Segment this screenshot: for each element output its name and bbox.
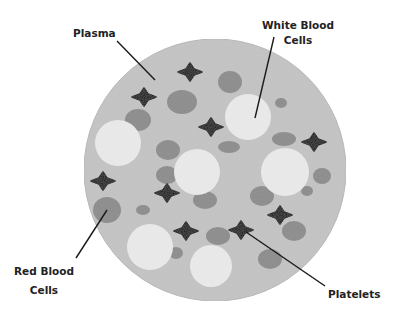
plasma-label: Plasma (73, 26, 116, 41)
platelet-core (275, 211, 285, 219)
platelet-core (98, 177, 108, 185)
white-blood-cells-label: White Blood Cells (262, 18, 334, 48)
red-blood-cell (136, 205, 150, 215)
white-blood-cell (95, 120, 141, 166)
plasma-region (84, 39, 346, 301)
white-blood-cells-label-line-1: White Blood (262, 18, 334, 33)
red-blood-cell (258, 249, 282, 269)
platelet-core (139, 93, 149, 101)
platelet-core (236, 226, 246, 234)
platelet-core (162, 189, 172, 197)
red-blood-cell (156, 140, 180, 160)
white-blood-cell (174, 149, 220, 195)
white-blood-cell (190, 245, 232, 287)
white-blood-cells-label-line-2: Cells (262, 33, 334, 48)
red-blood-cell (218, 141, 240, 153)
white-blood-cell (127, 224, 173, 270)
red-blood-cell (313, 168, 331, 184)
white-blood-cell (225, 94, 271, 140)
platelet-core (206, 123, 216, 131)
platelets-label: Platelets (328, 287, 381, 302)
red-blood-cell (275, 98, 287, 108)
red-blood-cells-label-line-1: Red Blood (14, 262, 74, 281)
platelet-core (181, 227, 191, 235)
red-blood-cell (167, 90, 197, 114)
red-blood-cell (218, 71, 242, 93)
white-blood-cell (261, 148, 309, 196)
red-blood-cell (282, 221, 306, 241)
platelet-core (185, 68, 195, 76)
red-blood-cells-label: Red Blood Cells (14, 262, 74, 300)
platelet-core (309, 138, 319, 146)
red-blood-cells-label-line-2: Cells (14, 281, 74, 300)
red-blood-cell (206, 227, 230, 245)
red-blood-cell (272, 132, 296, 146)
plasma-label-line-1: Plasma (73, 26, 116, 41)
platelets-label-line-1: Platelets (328, 287, 381, 302)
